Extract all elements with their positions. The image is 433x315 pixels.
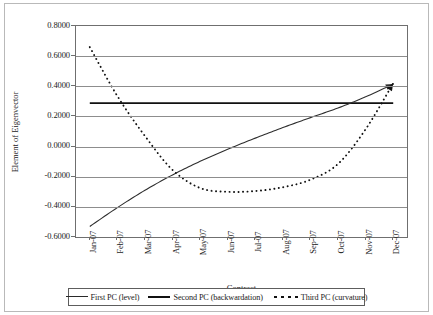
x-axis-tick-labels: Jan-07Feb-07Mar-07Apr-07May-07Jun-07Jul-… — [75, 240, 408, 286]
x-axis-tick-label: Mar-07 — [137, 240, 151, 286]
gridline — [76, 177, 407, 178]
x-axis-tick-mark — [199, 237, 200, 240]
x-axis-tick-mark — [144, 237, 145, 240]
gridline — [76, 116, 407, 117]
gridline — [76, 56, 407, 57]
y-axis-tick-label: -0.2000 — [8, 171, 70, 180]
x-axis-tick-mark — [227, 237, 228, 240]
legend-swatch-third-pc — [272, 294, 298, 300]
x-axis-tick-mark — [337, 237, 338, 240]
x-axis-tick-mark — [392, 237, 393, 240]
gridline — [76, 147, 407, 148]
x-axis-tick-label: Jun-07 — [220, 240, 234, 286]
y-axis-tick-label: 0.8000 — [8, 21, 70, 30]
x-axis-tick-label: Jul-07 — [247, 240, 261, 286]
legend-swatch-second-pc — [148, 294, 170, 300]
x-axis-tick-mark — [116, 237, 117, 240]
gridline — [76, 86, 407, 87]
legend-item-second-pc: Second PC (backwardation) — [148, 293, 262, 302]
y-axis-tick-label: -0.6000 — [8, 232, 70, 241]
legend-item-third-pc: Third PC (curvature) — [272, 293, 368, 302]
legend-swatch-first-pc — [66, 294, 88, 300]
y-axis-title-text: Element of Eigenvector — [10, 91, 20, 172]
x-axis-tick-label: Jan-07 — [82, 240, 96, 286]
chart-figure: Element of Eigenvector 0.80000.60000.400… — [0, 0, 433, 315]
x-axis-tick-label: Sep-07 — [302, 240, 316, 286]
plot-area — [75, 25, 408, 238]
x-axis-tick-mark — [309, 237, 310, 240]
y-axis-tick-label: 0.6000 — [8, 51, 70, 60]
data-lines — [76, 26, 407, 237]
x-axis-tick-label: Oct-07 — [330, 240, 344, 286]
y-axis-tick-label: 0.0000 — [8, 141, 70, 150]
chart-legend: First PC (level) Second PC (backwardatio… — [68, 288, 365, 306]
legend-item-first-pc: First PC (level) — [66, 293, 140, 302]
x-axis-tick-label: Apr-07 — [165, 240, 179, 286]
x-axis-tick-mark — [89, 237, 90, 240]
x-axis-tick-label: Nov-07 — [358, 240, 372, 286]
x-axis-tick-mark — [254, 237, 255, 240]
x-axis-tick-label: Dec-07 — [385, 240, 399, 286]
x-axis-tick-label: May-07 — [192, 240, 206, 286]
y-axis-tick-label: -0.4000 — [8, 201, 70, 210]
series-third-pc-line — [90, 47, 393, 192]
legend-label-third-pc: Third PC (curvature) — [301, 293, 368, 302]
x-axis-tick-label: Aug-07 — [275, 240, 289, 286]
x-axis-tick-mark — [172, 237, 173, 240]
series-second-pc-line — [90, 84, 393, 226]
y-axis-tick-label: 0.4000 — [8, 81, 70, 90]
x-axis-tick-mark — [365, 237, 366, 240]
y-axis-tick-label: 0.2000 — [8, 111, 70, 120]
x-axis-tick-label: Feb-07 — [109, 240, 123, 286]
gridline — [76, 207, 407, 208]
legend-label-second-pc: Second PC (backwardation) — [173, 293, 262, 302]
legend-label-first-pc: First PC (level) — [91, 293, 140, 302]
x-axis-tick-mark — [282, 237, 283, 240]
